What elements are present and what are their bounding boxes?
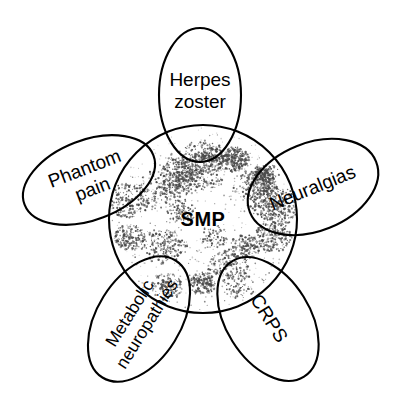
lobe-label-herpes-zoster: Herpeszoster [169,69,230,112]
venn-diagram-figure: HerpeszosterPhantompainNeuralgiasMetabol… [0,0,403,404]
center-label-smp: SMP [181,208,226,230]
lobe-label-line1-herpes-zoster: Herpes [169,69,230,90]
venn-diagram-canvas: HerpeszosterPhantompainNeuralgiasMetabol… [0,0,403,404]
lobe-label-line2-herpes-zoster: zoster [174,91,226,112]
